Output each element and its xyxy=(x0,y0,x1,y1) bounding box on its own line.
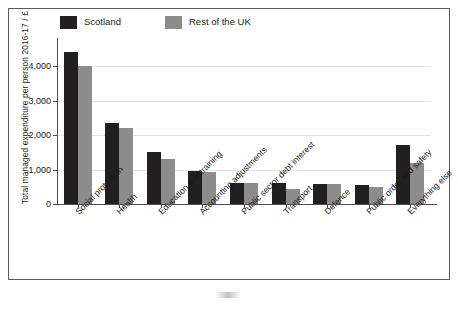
y-axis-line xyxy=(57,38,58,204)
bar-rest-of-the-uk[interactable] xyxy=(78,66,92,204)
y-axis-tick-label: 3,000 xyxy=(28,96,51,105)
x-axis-line xyxy=(57,204,437,205)
legend-label-rest-of-the-uk: Rest of the UK xyxy=(189,17,251,27)
bar-group xyxy=(313,42,341,204)
plot-inner: 01,0002,0003,0004,000 Social protectionH… xyxy=(57,42,431,204)
bar-group xyxy=(147,42,175,204)
legend-swatch-rest-of-the-uk xyxy=(165,16,182,29)
figure: Scotland Rest of the UK Total managed ex… xyxy=(0,0,458,310)
plot-area: 01,0002,0003,0004,000 Social protectionH… xyxy=(57,42,431,204)
legend-entry-scotland[interactable]: Scotland xyxy=(60,14,121,30)
chart-legend: Scotland Rest of the UK xyxy=(60,14,251,30)
bar-scotland[interactable] xyxy=(313,184,327,204)
y-axis-tick-label: 0 xyxy=(46,200,51,209)
y-axis-tick-label: 2,000 xyxy=(28,131,51,140)
bar-group xyxy=(64,42,92,204)
bar-scotland[interactable] xyxy=(355,185,369,204)
y-axis-tick-label: 4,000 xyxy=(28,62,51,71)
legend-entry-rest-of-the-uk[interactable]: Rest of the UK xyxy=(165,14,251,30)
bar-group xyxy=(355,42,383,204)
legend-swatch-scotland xyxy=(60,16,77,29)
y-axis-title: Total managed expenditure per person 201… xyxy=(20,24,30,204)
legend-label-scotland: Scotland xyxy=(84,17,121,27)
bar-scotland[interactable] xyxy=(64,52,78,204)
bar-scotland[interactable] xyxy=(147,152,161,204)
scan-artifact xyxy=(215,292,241,298)
y-axis-tick-label: 1,000 xyxy=(28,165,51,174)
